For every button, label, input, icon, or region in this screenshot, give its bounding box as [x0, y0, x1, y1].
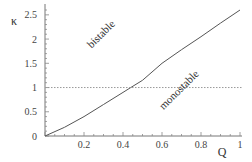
y-tick-label: 1.5	[25, 58, 38, 69]
x-tick-label: 1	[238, 139, 243, 150]
y-tick-label: 0.5	[25, 106, 38, 117]
axes	[45, 4, 242, 136]
chart: 0.20.40.60.8100.511.522.5Qκbistablemonos…	[0, 0, 252, 162]
x-tick-label: 0.4	[117, 139, 130, 150]
x-tick-label: 0.8	[195, 139, 208, 150]
boundary-curve	[45, 10, 240, 136]
y-tick-label: 2.5	[25, 9, 38, 20]
region-label-bistable: bistable	[84, 17, 117, 50]
series-layer	[45, 10, 242, 136]
y-axis-label: κ	[11, 14, 17, 28]
x-tick-label: 0.2	[78, 139, 91, 150]
y-tick-label: 0	[32, 131, 37, 142]
x-tick-label: 0.6	[156, 139, 169, 150]
region-label-monostable: monostable	[156, 67, 200, 111]
y-tick-label: 1	[32, 82, 37, 93]
x-axis-label: Q	[218, 145, 227, 159]
y-tick-label: 2	[32, 34, 37, 45]
